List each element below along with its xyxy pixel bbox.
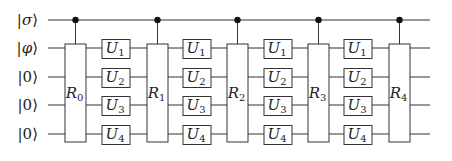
u-gate-4: U4 [344, 125, 372, 145]
wire-0: |σ⟩ [17, 11, 430, 29]
control-dot-icon [234, 17, 240, 23]
u-gate-2: U2 [344, 68, 372, 88]
ket-label: |0⟩ [18, 125, 38, 143]
u-gate-2: U2 [264, 68, 292, 88]
u-gate-1: U1 [264, 39, 292, 59]
control-dot-icon [72, 17, 78, 23]
u-gate-2: U2 [102, 68, 130, 88]
ket-label: |σ⟩ [17, 11, 38, 29]
u-gate-3: U3 [344, 96, 372, 116]
control-dot-icon [396, 17, 402, 23]
control-dot-icon [154, 17, 160, 23]
r-gate-1: R1 [147, 17, 168, 142]
u-gate-1: U1 [102, 39, 130, 59]
r-gate-3: R3 [308, 17, 329, 142]
u-gate-2: U2 [183, 68, 211, 88]
quantum-circuit: |σ⟩|φ⟩|0⟩|0⟩|0⟩R0R1R2R3R4U1U2U3U4U1U2U3U… [0, 0, 452, 161]
control-dot-icon [315, 17, 321, 23]
ket-label: |0⟩ [18, 96, 38, 114]
r-gate-2: R2 [227, 17, 248, 142]
r-gate-0: R0 [65, 17, 86, 142]
u-gate-1: U1 [183, 39, 211, 59]
u-gate-3: U3 [264, 96, 292, 116]
u-gate-4: U4 [264, 125, 292, 145]
r-gate-4: R4 [389, 17, 410, 142]
u-gate-3: U3 [183, 96, 211, 116]
u-gate-1: U1 [344, 39, 372, 59]
u-gate-4: U4 [183, 125, 211, 145]
u-gate-3: U3 [102, 96, 130, 116]
u-gate-4: U4 [102, 125, 130, 145]
ket-label: |φ⟩ [17, 39, 38, 57]
ket-label: |0⟩ [18, 68, 38, 86]
